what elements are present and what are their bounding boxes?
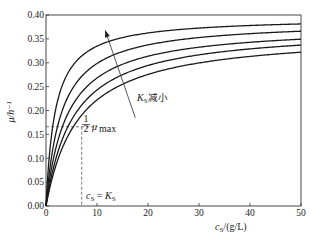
svg-text:μ: μ xyxy=(91,121,97,132)
x-tick-label: 10 xyxy=(92,208,102,218)
x-tick-label: 0 xyxy=(44,208,49,218)
x-tick-label: 50 xyxy=(296,208,306,218)
y-tick-label: 0.30 xyxy=(27,58,44,68)
y-tick-label: 0.05 xyxy=(27,177,44,187)
y-tick-label: 0.40 xyxy=(27,10,44,20)
x-tick-label: 30 xyxy=(194,208,204,218)
y-tick-label: 0.25 xyxy=(27,82,44,92)
x-axis-label: cS/(g/L) xyxy=(215,221,247,234)
y-tick-label: 0.10 xyxy=(27,154,44,164)
svg-text:max: max xyxy=(99,123,116,134)
y-axis-label: μ/h⁻¹ xyxy=(5,101,16,123)
x-axis-ticks: 01020304050 xyxy=(44,203,306,218)
plot-border xyxy=(46,15,301,206)
y-tick-label: 0.15 xyxy=(27,130,44,140)
y-tick-label: 0.35 xyxy=(27,34,44,44)
y-tick-label: 0.20 xyxy=(27,106,44,116)
arrow-head-icon xyxy=(105,30,110,37)
plot-frame xyxy=(46,15,301,206)
svg-text:2: 2 xyxy=(84,123,89,134)
monod-chart: 0.000.050.100.150.200.250.300.350.40 010… xyxy=(0,0,315,240)
x-tick-label: 20 xyxy=(143,208,153,218)
ks-decrease-arrow xyxy=(105,30,135,117)
half-mu-max-label: 1 2 μ max xyxy=(82,113,116,134)
ks-decrease-label: KS减小 xyxy=(136,92,168,105)
cs-equals-ks-label: cS = KS xyxy=(86,190,116,203)
x-tick-label: 40 xyxy=(245,208,255,218)
y-tick-label: 0.00 xyxy=(27,201,44,211)
